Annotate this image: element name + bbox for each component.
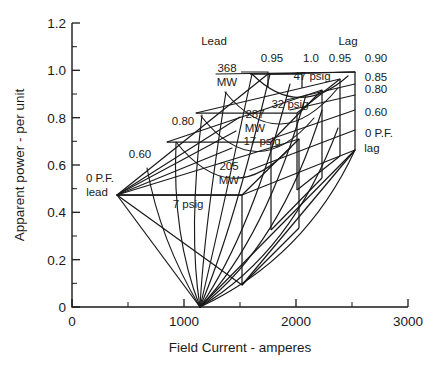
pf-label-zero-lead: 0 P.F.: [86, 172, 114, 184]
pf-label-lag-090: 0.90: [365, 52, 387, 64]
psig-label-47: 47 psig: [293, 70, 330, 82]
pf-label-lead-080: 0.80: [172, 115, 194, 127]
y-tick-label: 1.2: [47, 16, 66, 31]
pf-label-unity: 1.0: [303, 52, 319, 64]
chart-canvas: 0 0.2 0.4 0.6 0.8 1.0 1.2 0 1000 2000 30…: [0, 0, 441, 373]
pf-label-lag-085: 0.85: [365, 71, 387, 83]
psig-label-7: 7 psig: [173, 198, 204, 210]
y-tick-label: 0.4: [47, 205, 66, 220]
psig-label-32: 32 psig: [271, 98, 308, 110]
y-tick-label: 0.8: [47, 111, 66, 126]
axis-lines: [72, 23, 408, 307]
pf-label-zero-lag-2: lag: [364, 142, 379, 154]
y-tick-label: 0: [58, 300, 66, 315]
mw-unit-205: MW: [219, 174, 240, 186]
x-tick-label: 2000: [281, 314, 311, 329]
pf-label-zero-lag: 0 P.F.: [365, 127, 393, 139]
x-tick-label: 0: [68, 314, 76, 329]
mw-unit-287: MW: [245, 122, 266, 134]
x-tick-labels: 0 1000 2000 3000: [68, 314, 423, 329]
y-tick-label: 1.0: [47, 63, 66, 78]
pf-label-zero-lead-2: lead: [86, 186, 108, 198]
x-tick-label: 3000: [393, 314, 423, 329]
psig-label-17: 17 psig: [243, 135, 280, 147]
pf-label-lag-060: 0.60: [365, 106, 387, 118]
mw-label-287: 287: [245, 108, 264, 120]
mw-unit-368: MW: [217, 76, 238, 88]
region-label-lead: Lead: [201, 35, 227, 47]
y-major-ticks: [72, 23, 80, 307]
annotations-group: Lead Lag 368 MW 0.95 1.0 0.95 0.90 47 ps…: [86, 35, 393, 210]
pf-label-lag-095: 0.95: [329, 52, 351, 64]
capability-diagram: [117, 72, 355, 307]
y-tick-label: 0.6: [47, 158, 66, 173]
y-tick-labels: 0 0.2 0.4 0.6 0.8 1.0 1.2: [47, 16, 66, 315]
capability-curve-figure: 0 0.2 0.4 0.6 0.8 1.0 1.2 0 1000 2000 30…: [0, 0, 441, 373]
pf-label-lead-060: 0.60: [129, 148, 151, 160]
mw-label-368: 368: [217, 62, 236, 74]
y-axis-title: Apparent power - per unit: [12, 89, 27, 242]
region-label-lag: Lag: [338, 35, 357, 47]
mw-label-205: 205: [219, 160, 238, 172]
pf-label-lag-080: 0.80: [365, 83, 387, 95]
x-tick-label: 1000: [169, 314, 199, 329]
layer-205mw-7psig: [117, 139, 299, 285]
y-tick-label: 0.2: [47, 253, 66, 268]
pf-label-lead-095: 0.95: [261, 52, 283, 64]
x-minor-ticks: [128, 302, 352, 307]
x-axis-title: Field Current - amperes: [169, 340, 312, 355]
